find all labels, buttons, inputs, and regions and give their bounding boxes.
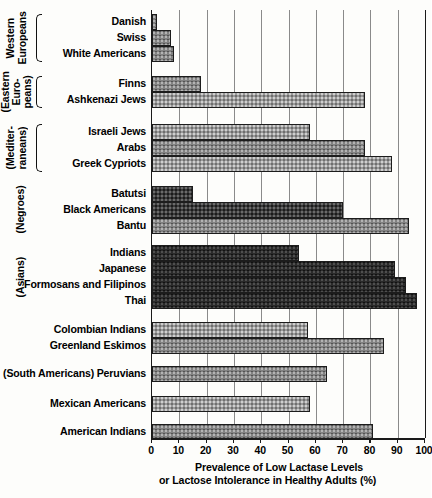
group-brace-icon — [33, 12, 42, 64]
category-label-formosans-and-filipinos: Formosans and Filipinos — [24, 279, 146, 290]
category-label-indians: Indians — [110, 247, 146, 258]
category-label-swiss: Swiss — [117, 32, 146, 43]
category-label-black-americans: Black Americans — [63, 204, 146, 215]
x-tick-30 — [233, 438, 234, 443]
plot-area — [151, 10, 425, 438]
bar-israeli-jews — [152, 124, 310, 140]
x-tick-0 — [151, 438, 152, 443]
group-brace-icon — [33, 122, 42, 174]
x-tick-label-40: 40 — [255, 444, 266, 456]
category-label-greenland-eskimos: Greenland Eskimos — [50, 340, 146, 351]
bar-formosans-and-filipinos — [152, 277, 406, 293]
category-label-colombian-indians: Colombian Indians — [54, 324, 146, 335]
bar-peruvians — [152, 366, 327, 382]
x-tick-10 — [178, 438, 179, 443]
group-label: (Asians) — [0, 243, 42, 311]
bar-danish — [152, 14, 157, 30]
group-western-europeans: Western Europeans — [0, 12, 42, 64]
x-tick-100 — [424, 438, 425, 443]
x-tick-50 — [288, 438, 289, 443]
bar-mexican-americans — [152, 396, 310, 412]
bar-greek-cypriots — [152, 156, 392, 172]
group-label: (Eastern Euro- peans) — [0, 74, 33, 110]
x-tick-label-60: 60 — [309, 444, 320, 456]
category-label-israeli-jews: Israeli Jews — [88, 126, 146, 137]
category-label-danish: Danish — [112, 16, 146, 27]
bar-bantu — [152, 218, 409, 234]
group-label: Western Europeans — [0, 12, 33, 64]
category-label-thai: Thai — [125, 295, 146, 306]
x-axis-title: Prevalence of Low Lactase Levels or Lact… — [151, 461, 431, 487]
bar-white-americans — [152, 46, 174, 62]
group-label: (Negroes) — [0, 184, 42, 236]
group-mediter-raneans: (Mediter- raneans) — [0, 122, 42, 174]
category-label-peruvians: Peruvians — [97, 368, 146, 379]
bar-colombian-indians — [152, 322, 308, 338]
x-tick-label-80: 80 — [364, 444, 375, 456]
group-asians: (Asians) — [0, 243, 42, 311]
category-label-white-americans: White Americans — [63, 48, 146, 59]
bar-indians — [152, 245, 299, 261]
bar-greenland-eskimos — [152, 338, 384, 354]
x-tick-80 — [369, 438, 370, 443]
x-tick-60 — [315, 438, 316, 443]
bar-black-americans — [152, 202, 343, 218]
category-label-arabs: Arabs — [117, 142, 146, 153]
category-label-batutsi: Batutsi — [111, 188, 146, 199]
x-tick-label-0: 0 — [148, 444, 154, 456]
category-label-japanese: Japanese — [99, 263, 146, 274]
group-brace-icon — [33, 74, 42, 110]
x-axis-title-line1: Prevalence of Low Lactase Levels — [151, 461, 431, 474]
bar-swiss — [152, 30, 171, 46]
x-tick-label-100: 100 — [416, 444, 432, 456]
category-label-ashkenazi-jews: Ashkenazi Jews — [67, 94, 146, 105]
bar-japanese — [152, 261, 395, 277]
x-tick-20 — [206, 438, 207, 443]
category-label-bantu: Bantu — [117, 220, 146, 231]
category-label-greek-cypriots: Greek Cypriots — [72, 158, 146, 169]
group-bracket-column: Western Europeans(Eastern Euro- peans)(M… — [0, 0, 42, 446]
bar-batutsi — [152, 186, 193, 202]
bar-ashkenazi-jews — [152, 92, 365, 108]
x-tick-label-90: 90 — [391, 444, 402, 456]
x-tick-label-30: 30 — [227, 444, 238, 456]
x-tick-label-20: 20 — [200, 444, 211, 456]
x-tick-label-70: 70 — [336, 444, 347, 456]
category-label-mexican-americans: Mexican Americans — [50, 398, 146, 409]
group-label: (Mediter- raneans) — [0, 122, 33, 174]
category-label-column: DanishSwissWhite AmericansFinnsAshkenazi… — [42, 0, 149, 446]
x-tick-90 — [397, 438, 398, 443]
x-tick-label-50: 50 — [282, 444, 293, 456]
category-label-american-indians: American Indians — [60, 426, 146, 437]
x-tick-40 — [260, 438, 261, 443]
bar-arabs — [152, 140, 365, 156]
group-eastern-euro-peans: (Eastern Euro- peans) — [0, 74, 42, 110]
bar-thai — [152, 293, 417, 309]
group-negroes: (Negroes) — [0, 184, 42, 236]
bar-finns — [152, 76, 201, 92]
x-tick-70 — [342, 438, 343, 443]
x-tick-label-10: 10 — [173, 444, 184, 456]
x-axis-title-line2: or Lactose Intolerance in Healthy Adults… — [151, 474, 431, 487]
category-label-finns: Finns — [119, 78, 147, 89]
gridline-100 — [425, 10, 426, 438]
